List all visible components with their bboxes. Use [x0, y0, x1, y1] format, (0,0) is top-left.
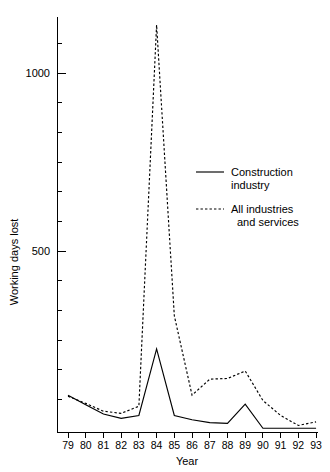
y-axis-tick-labels: 1000 500: [26, 67, 50, 257]
x-tick-label-80: 80: [80, 439, 92, 451]
legend-label-all-industries-and-services-line2: and services: [237, 216, 299, 228]
x-tick-label-92: 92: [293, 439, 305, 451]
legend-label-construction-industry-line1: Construction: [231, 166, 293, 178]
y-axis-title: Working days lost: [8, 219, 20, 306]
x-tick-label-89: 89: [239, 439, 251, 451]
x-tick-label-81: 81: [98, 439, 110, 451]
x-tick-label-86: 86: [186, 439, 198, 451]
y-axis-ticks: [58, 43, 66, 399]
x-tick-label-79: 79: [62, 439, 74, 451]
legend-label-construction-industry-line2: industry: [231, 179, 270, 191]
y-tick-label-1000: 1000: [26, 67, 50, 79]
x-tick-label-85: 85: [168, 439, 180, 451]
chart-legend: Construction industry All industries and…: [196, 166, 299, 228]
x-tick-label-82: 82: [115, 439, 127, 451]
line-chart: 1000 500 798081828384858687888990919293 …: [0, 0, 330, 472]
x-tick-label-88: 88: [222, 439, 234, 451]
x-tick-label-87: 87: [204, 439, 216, 451]
x-axis-title: Year: [176, 455, 199, 467]
x-tick-label-91: 91: [275, 439, 287, 451]
x-tick-label-93: 93: [310, 439, 322, 451]
x-tick-label-90: 90: [257, 439, 269, 451]
x-tick-label-83: 83: [133, 439, 145, 451]
x-axis-tick-labels: 798081828384858687888990919293: [62, 439, 322, 451]
legend-label-all-industries-and-services-line1: All industries: [231, 203, 294, 215]
x-axis-ticks: [68, 433, 316, 438]
x-tick-label-84: 84: [151, 439, 163, 451]
y-tick-label-500: 500: [32, 245, 50, 257]
series-construction-industry: [68, 349, 316, 428]
chart-container: 1000 500 798081828384858687888990919293 …: [0, 0, 330, 472]
